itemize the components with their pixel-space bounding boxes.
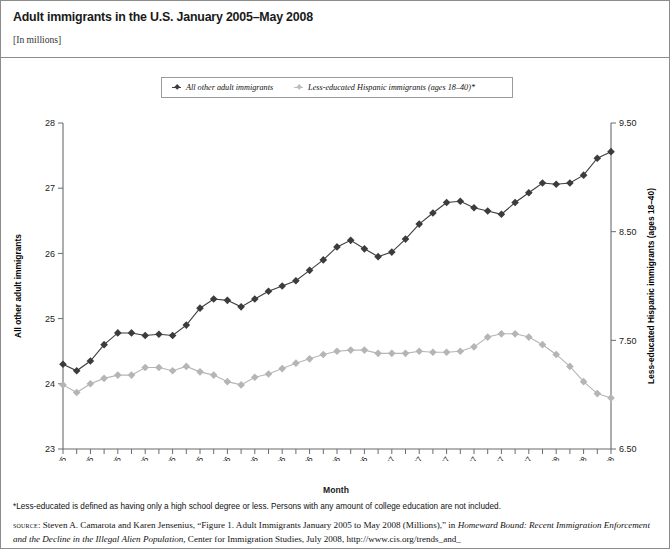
data-point-marker bbox=[525, 333, 533, 341]
legend-label-less-educated-hispanic-immigrants: Less-educated Hispanic immigrants (ages … bbox=[308, 83, 475, 92]
data-point-marker bbox=[429, 348, 437, 356]
footnote-text: *Less-educated is defined as having only… bbox=[13, 502, 659, 511]
y-axis-tick-label: 23 bbox=[45, 444, 55, 454]
chart-legend: All other adult immigrants Less-educated… bbox=[161, 77, 513, 98]
data-point-marker bbox=[552, 180, 560, 188]
data-point-marker bbox=[443, 348, 451, 356]
data-point-marker bbox=[278, 365, 286, 373]
units-subtitle: [In millions] bbox=[13, 34, 61, 45]
data-point-marker bbox=[333, 347, 341, 355]
data-point-marker bbox=[237, 303, 245, 311]
data-point-marker bbox=[155, 364, 163, 372]
data-point-marker bbox=[566, 179, 574, 187]
data-point-marker bbox=[361, 346, 369, 354]
x-axis-tick-label: Jan-05 bbox=[47, 455, 69, 461]
x-axis-tick-label: Nov-06 bbox=[347, 455, 369, 461]
data-point-marker bbox=[470, 204, 478, 212]
data-point-marker bbox=[182, 363, 190, 371]
data-point-marker bbox=[128, 329, 136, 337]
data-point-marker bbox=[251, 295, 259, 303]
data-point-marker bbox=[525, 189, 533, 197]
data-point-marker bbox=[224, 378, 232, 386]
data-point-marker bbox=[265, 370, 273, 378]
data-point-marker bbox=[169, 367, 177, 375]
data-point-marker bbox=[128, 371, 136, 379]
y-axis-tick-label: 24 bbox=[45, 379, 55, 389]
legend-label-all-other-adult-immigrants: All other adult immigrants bbox=[186, 83, 273, 92]
x-axis-tick-label: Mar-05 bbox=[74, 455, 96, 461]
data-point-marker bbox=[265, 287, 273, 295]
y-axis-tick-label: 26 bbox=[45, 249, 55, 259]
data-point-marker bbox=[141, 364, 149, 372]
data-point-marker bbox=[498, 330, 506, 338]
legend-marker-dark-icon bbox=[172, 83, 181, 92]
legend-item-all-other-adult-immigrants: All other adult immigrants bbox=[172, 83, 273, 92]
data-point-marker bbox=[388, 350, 396, 358]
x-axis-title: Month bbox=[1, 485, 670, 495]
x-axis-tick-label: Nov-05 bbox=[183, 455, 205, 461]
y2-axis-title: Less-educated Hispanic immigrants (ages … bbox=[646, 188, 656, 384]
data-point-marker bbox=[607, 148, 615, 156]
y-axis-tick-label: 25 bbox=[45, 314, 55, 324]
x-axis-tick-label: Sep-06 bbox=[320, 455, 342, 461]
x-axis-tick-label: Mar-07 bbox=[402, 455, 424, 461]
x-axis-tick-label: Mar-08 bbox=[567, 455, 589, 461]
data-point-marker bbox=[511, 330, 519, 338]
data-point-marker bbox=[539, 179, 547, 187]
data-point-marker bbox=[374, 350, 382, 358]
x-axis-tick-label: Jan-07 bbox=[376, 455, 398, 461]
source-label: source bbox=[13, 520, 38, 530]
y2-axis-tick-label: 7.50 bbox=[619, 336, 637, 346]
x-axis-tick-label: Sep-07 bbox=[484, 455, 506, 461]
header-divider bbox=[1, 57, 669, 58]
data-point-marker bbox=[73, 367, 81, 375]
x-axis-tick-label: May-05 bbox=[100, 455, 123, 461]
data-point-marker bbox=[141, 332, 149, 340]
source-title-part1: Homeward Bound: Recent bbox=[458, 520, 554, 530]
data-point-marker bbox=[59, 381, 67, 389]
data-point-marker bbox=[210, 295, 218, 303]
legend-marker-light-icon bbox=[294, 83, 303, 92]
data-point-marker bbox=[347, 346, 355, 354]
data-point-marker bbox=[292, 359, 300, 367]
y2-axis-tick-label: 8.50 bbox=[619, 227, 637, 237]
data-point-marker bbox=[59, 360, 67, 368]
x-axis-tick-label: May-07 bbox=[429, 455, 452, 461]
data-point-marker bbox=[100, 375, 108, 383]
data-point-marker bbox=[155, 330, 163, 338]
data-point-marker bbox=[415, 347, 423, 355]
x-axis-tick-label: Sep-05 bbox=[156, 455, 178, 461]
data-point-marker bbox=[456, 197, 464, 205]
data-point-marker bbox=[278, 282, 286, 290]
x-axis-tick-label: May-08 bbox=[593, 455, 616, 461]
data-point-marker bbox=[210, 371, 218, 379]
data-point-marker bbox=[470, 343, 478, 351]
data-point-marker bbox=[114, 371, 122, 379]
chart-area: 2324252627286.507.508.509.50Jan-05Mar-05… bbox=[1, 101, 670, 461]
data-point-marker bbox=[87, 380, 95, 388]
y2-axis-tick-label: 9.50 bbox=[619, 118, 637, 128]
x-axis-tick-label: Jan-06 bbox=[211, 455, 233, 461]
data-point-marker bbox=[73, 389, 81, 397]
data-point-marker bbox=[237, 381, 245, 389]
data-point-marker bbox=[402, 350, 410, 358]
data-point-marker bbox=[196, 368, 204, 376]
x-axis-tick-label: Jan-08 bbox=[540, 455, 562, 461]
data-point-marker bbox=[374, 253, 382, 261]
data-point-marker bbox=[456, 347, 464, 355]
data-point-marker bbox=[251, 373, 259, 381]
y-axis-tick-label: 27 bbox=[45, 183, 55, 193]
line-chart: 2324252627286.507.508.509.50Jan-05Mar-05… bbox=[1, 101, 670, 461]
x-axis-tick-label: Jul-05 bbox=[130, 455, 150, 461]
source-text-b: Center for Immigration Studies, July 200… bbox=[186, 534, 461, 544]
data-point-marker bbox=[361, 245, 369, 253]
data-point-marker bbox=[484, 333, 492, 341]
y2-axis-tick-label: 6.50 bbox=[619, 444, 637, 454]
data-point-marker bbox=[539, 341, 547, 349]
x-axis-tick-label: Jul-06 bbox=[295, 455, 315, 461]
legend-item-less-educated-hispanic-immigrants: Less-educated Hispanic immigrants (ages … bbox=[294, 83, 475, 92]
x-axis-tick-label: Mar-06 bbox=[238, 455, 260, 461]
y-axis-tick-label: 28 bbox=[45, 118, 55, 128]
x-axis-tick-label: May-06 bbox=[265, 455, 288, 461]
data-point-marker bbox=[306, 355, 314, 363]
